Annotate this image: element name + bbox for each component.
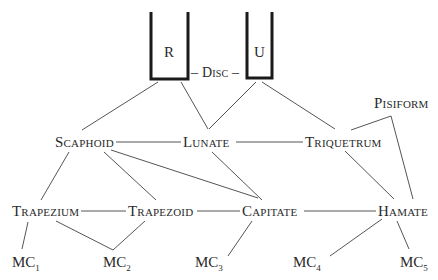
mc1-label: MC1: [12, 255, 40, 273]
hamate-label: Hamate: [378, 204, 428, 219]
edge-lunate-capitate: [212, 152, 262, 200]
edge-pisiform-hamate: [391, 116, 413, 199]
scaphoid-label: Scaphoid: [55, 135, 114, 150]
edge-triquetrum-hamate: [345, 151, 394, 199]
lunate-label: Lunate: [183, 135, 229, 150]
trapezoid-label: Trapezoid: [128, 204, 193, 219]
mc1-base: MC: [12, 254, 35, 270]
edge-trapezoid-mc2: [113, 221, 145, 250]
edge-scaphoid-capitate: [111, 150, 258, 198]
radius-label: R: [164, 45, 174, 60]
edge-scaphoid-trapezium: [41, 152, 69, 200]
triquetrum-label: Triquetrum: [305, 135, 382, 150]
edge-capitate-mc3: [228, 221, 252, 256]
mc4-sub: 4: [316, 263, 321, 273]
capitate-label: Capitate: [242, 204, 297, 219]
mc5-label: MC5: [400, 255, 428, 273]
mc5-base: MC: [400, 254, 423, 270]
trapezium-label: Trapezium: [12, 204, 79, 219]
mc3-sub: 3: [218, 263, 223, 273]
mc2-sub: 2: [126, 263, 131, 273]
edge-trapezium-mc2: [56, 221, 113, 250]
mc3-base: MC: [195, 254, 218, 270]
ulna-label: U: [254, 45, 265, 60]
pisiform-label: Pisiform: [374, 96, 429, 111]
edge-triquetrum-pisiform: [351, 116, 391, 130]
edge-trapezium-mc1: [22, 222, 28, 249]
mc2-label: MC2: [103, 255, 131, 273]
mc1-sub: 1: [35, 263, 40, 273]
mc4-base: MC: [293, 254, 316, 270]
edge-radius-scaphoid: [82, 82, 158, 130]
disc-label: – Disc –: [191, 66, 239, 80]
mc2-base: MC: [103, 254, 126, 270]
edge-hamate-mc5: [397, 221, 409, 249]
edge-radius-lunate: [181, 82, 208, 129]
edge-scaphoid-trapezoid: [104, 152, 156, 200]
edge-ulna-triquetrum: [262, 82, 335, 129]
mc5-sub: 5: [423, 263, 428, 273]
mc4-label: MC4: [293, 255, 321, 273]
edge-ulna-lunate: [209, 82, 256, 129]
edge-hamate-mc4: [330, 219, 382, 256]
mc3-label: MC3: [195, 255, 223, 273]
